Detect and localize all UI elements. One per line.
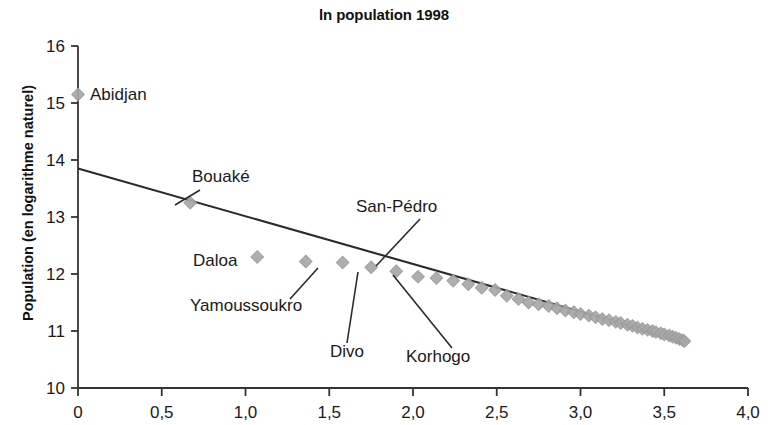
data-point-marker bbox=[251, 251, 263, 263]
chart-figure: ln population 1998 Population (en logari… bbox=[0, 0, 768, 425]
data-point-marker bbox=[365, 261, 377, 273]
y-axis-tick-label: 13 bbox=[46, 208, 65, 227]
city-label: Korhogo bbox=[406, 347, 470, 366]
x-axis-tick-label: 1,0 bbox=[234, 403, 258, 422]
leader-line bbox=[347, 272, 358, 343]
data-point-marker bbox=[72, 88, 84, 100]
city-label: Daloa bbox=[193, 251, 238, 270]
y-axis-tick-label: 10 bbox=[46, 379, 65, 398]
city-label: San-Pédro bbox=[356, 197, 437, 216]
data-point-marker bbox=[390, 265, 402, 277]
y-axis-tick-label: 16 bbox=[46, 37, 65, 56]
x-axis-tick-label: 1,5 bbox=[317, 403, 341, 422]
y-axis-tick-label: 15 bbox=[46, 94, 65, 113]
city-label: Abidjan bbox=[90, 85, 147, 104]
x-axis-tick-label: 4,0 bbox=[736, 403, 760, 422]
x-axis-tick-label: 0 bbox=[73, 403, 82, 422]
data-points bbox=[72, 88, 691, 347]
x-axis: 00,51,01,52,02,53,03,54,0 bbox=[73, 388, 760, 422]
data-point-marker bbox=[300, 255, 312, 267]
data-point-marker bbox=[412, 271, 424, 283]
data-point-marker bbox=[532, 298, 544, 310]
scatter-plot: 10111213141516 00,51,01,52,02,53,03,54,0… bbox=[0, 0, 768, 425]
x-axis-tick-label: 3,5 bbox=[652, 403, 676, 422]
data-point-marker bbox=[336, 256, 348, 268]
y-axis-tick-label: 14 bbox=[46, 151, 65, 170]
leader-line bbox=[393, 275, 452, 348]
city-label: Bouaké bbox=[192, 167, 250, 186]
x-axis-tick-label: 3,0 bbox=[569, 403, 593, 422]
city-label: Divo bbox=[330, 342, 364, 361]
x-axis-tick-label: 2,0 bbox=[401, 403, 425, 422]
y-axis-tick-label: 12 bbox=[46, 265, 65, 284]
x-axis-tick-label: 0,5 bbox=[150, 403, 174, 422]
y-axis: 10111213141516 bbox=[46, 37, 78, 398]
city-label: Yamoussoukro bbox=[190, 296, 302, 315]
data-point-marker bbox=[430, 272, 442, 284]
leader-line bbox=[290, 268, 318, 299]
x-axis-tick-label: 2,5 bbox=[485, 403, 509, 422]
y-axis-tick-label: 11 bbox=[47, 322, 65, 341]
